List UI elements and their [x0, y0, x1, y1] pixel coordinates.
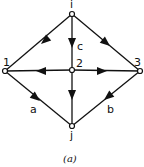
- edge-label-c: c: [77, 40, 83, 53]
- node-j: [70, 124, 75, 129]
- node-label-i: i: [70, 0, 73, 11]
- figure-caption: (a): [63, 153, 77, 164]
- node-1: [3, 69, 8, 74]
- edge-i-1: [5, 14, 72, 71]
- network-diagram: i 1 2 3 j c a b (a): [0, 0, 144, 167]
- edge-label-b: b: [107, 103, 114, 116]
- arrowhead-i-2: [68, 38, 76, 48]
- node-i: [70, 12, 75, 17]
- node-label-1: 1: [3, 56, 10, 69]
- node-label-2: 2: [76, 57, 83, 70]
- node-label-j: j: [69, 129, 73, 142]
- arrowhead-2-3: [97, 67, 107, 75]
- arrowhead-2-j: [68, 90, 76, 100]
- node-3: [138, 69, 143, 74]
- node-label-3: 3: [134, 56, 141, 69]
- node-2: [70, 68, 75, 73]
- edge-label-a: a: [30, 103, 37, 116]
- arrowhead-2-1: [36, 67, 46, 75]
